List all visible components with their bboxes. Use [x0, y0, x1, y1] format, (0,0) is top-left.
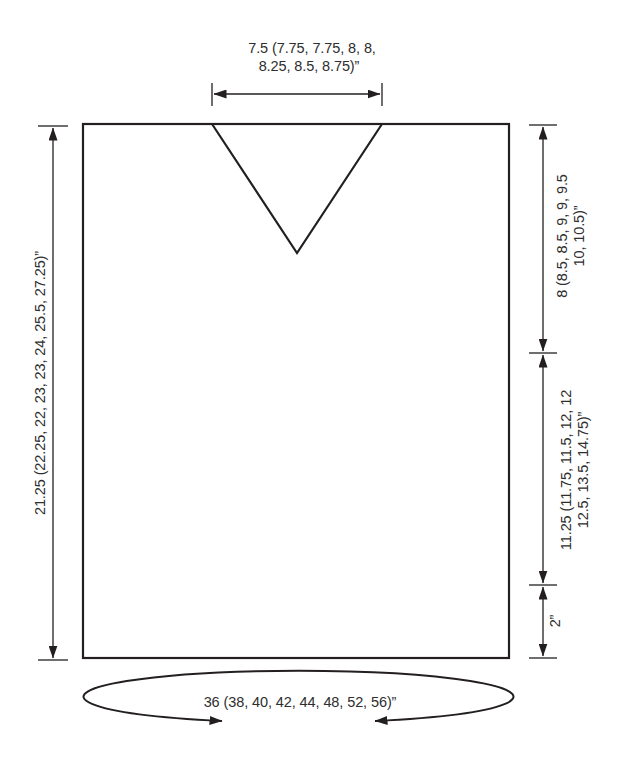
middle-right-length-label-line2: 12.5, 13.5, 14.75)”	[575, 411, 591, 528]
neck-width-label-line2: 8.25, 8.5, 8.75)”	[259, 58, 360, 74]
body-length-label: 21.25 (22.25, 22, 23, 23, 24, 25.5, 27.2…	[32, 251, 48, 515]
neck-width-dimension: 7.5 (7.75, 7.75, 8, 8, 8.25, 8.5, 8.75)”	[212, 40, 382, 106]
circumference-dimension: 36 (38, 40, 42, 44, 48, 52, 56)”	[84, 671, 514, 721]
upper-right-depth-label-line1: 8 (8.5, 8.5, 9, 9, 9.5	[554, 174, 570, 298]
body-length-dimension: 21.25 (22.25, 22, 23, 23, 24, 25.5, 27.2…	[32, 126, 68, 660]
neck-width-label-line1: 7.5 (7.75, 7.75, 8, 8,	[248, 40, 376, 56]
upper-right-depth-label-line2: 10, 10.5)”	[571, 205, 587, 266]
circumference-label: 36 (38, 40, 42, 44, 48, 52, 56)”	[204, 694, 397, 710]
lower-edge-label: 2”	[547, 614, 563, 627]
garment-body-outline	[83, 124, 509, 658]
middle-right-length-label-line1: 11.25 (11.75, 11.5, 12, 12	[558, 390, 574, 550]
right-dimensions: 8 (8.5, 8.5, 9, 9, 9.5 10, 10.5)” 11.25 …	[529, 125, 591, 658]
garment-schematic-canvas: 7.5 (7.75, 7.75, 8, 8, 8.25, 8.5, 8.75)”…	[0, 0, 622, 775]
schematic-page: 7.5 (7.75, 7.75, 8, 8, 8.25, 8.5, 8.75)”…	[0, 0, 622, 775]
